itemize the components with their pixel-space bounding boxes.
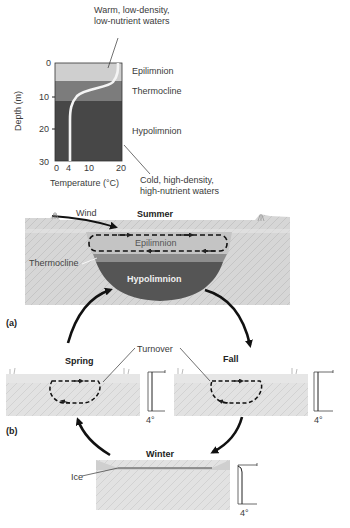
- wind-label: Wind: [76, 208, 97, 218]
- fall-temp-marker: 4°: [314, 415, 323, 425]
- spring-temp-marker: 4°: [146, 415, 155, 425]
- hypolimnion-label: Hypolimnion: [127, 274, 182, 284]
- x-tick-4: 4: [66, 163, 71, 173]
- x-tick-0: 0: [54, 163, 59, 173]
- y-tick-30: 30: [39, 157, 49, 167]
- x-tick-20: 20: [116, 163, 126, 173]
- warm-note-line-2: low-nutrient waters: [94, 16, 170, 27]
- cold-note-line-2: high-nutrient waters: [140, 186, 219, 197]
- layer-label-epilimnion: Epilimnion: [132, 66, 174, 76]
- panel-label-a: (a): [6, 318, 17, 328]
- epilimnion-label: Epilimnion: [135, 238, 177, 248]
- fall-label: Fall: [223, 354, 239, 364]
- layer-label-hypolimnion: Hypolimnion: [132, 126, 182, 136]
- fall-lake: [174, 368, 333, 416]
- turnover-label: Turnover: [137, 344, 173, 354]
- y-axis-label: Depth (m): [13, 91, 23, 131]
- winter-lake: [82, 460, 257, 510]
- ice-label: Ice: [71, 472, 83, 482]
- cold-water-note: Cold, high-density, high-nutrient waters: [140, 175, 219, 196]
- cycle-arrows: [68, 290, 250, 455]
- cold-note-line-1: Cold, high-density,: [140, 175, 219, 186]
- y-tick-0: 0: [46, 58, 51, 68]
- warm-water-note: Warm, low-density, low-nutrient waters: [94, 5, 170, 26]
- panel-label-b: (b): [6, 426, 18, 436]
- x-axis-label: Temperature (°C): [50, 178, 119, 188]
- x-tick-10: 10: [84, 163, 94, 173]
- winter-label: Winter: [146, 449, 174, 459]
- summer-label: Summer: [137, 209, 173, 219]
- y-tick-20: 20: [39, 124, 49, 134]
- layer-label-thermocline: Thermocline: [132, 86, 182, 96]
- winter-temp-marker: 4°: [240, 508, 249, 518]
- y-tick-10: 10: [39, 92, 49, 102]
- spring-label: Spring: [65, 356, 94, 366]
- spring-lake: [6, 368, 165, 416]
- thermocline-label: Thermocline: [29, 258, 79, 268]
- warm-note-line-1: Warm, low-density,: [94, 5, 170, 16]
- temperature-profile-chart: [52, 38, 150, 174]
